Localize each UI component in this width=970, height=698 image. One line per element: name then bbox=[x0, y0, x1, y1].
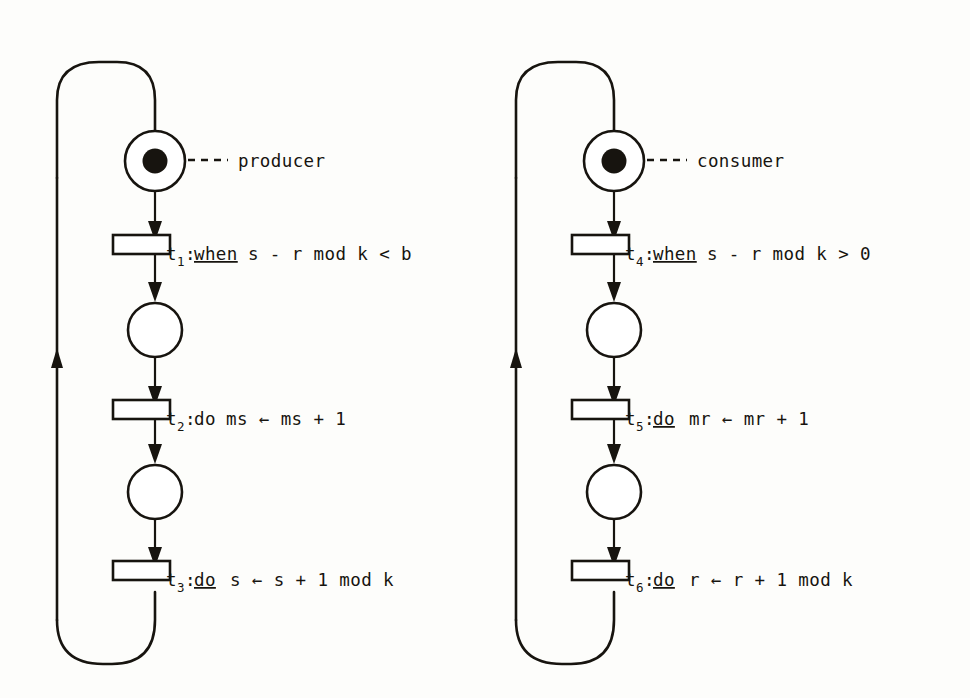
transition-t5-name: t bbox=[625, 409, 636, 429]
transition-t2[interactable] bbox=[113, 400, 170, 419]
producer-net: producer t 1 : when s - r mod k < b t 2 … bbox=[51, 62, 412, 664]
place-producer-mid1[interactable] bbox=[128, 303, 182, 357]
transition-t6-keyword: do bbox=[653, 570, 675, 590]
transition-t3-body: s ← s + 1 mod k bbox=[230, 570, 394, 590]
petri-net-figure: producer t 1 : when s - r mod k < b t 2 … bbox=[0, 0, 970, 698]
transition-t3-name: t bbox=[166, 570, 177, 590]
producer-feedback-arrowhead bbox=[51, 348, 63, 368]
token-consumer-idle bbox=[602, 149, 627, 174]
transition-t5-keyword: do bbox=[653, 409, 675, 429]
arrowhead-t2-to-producer-mid2 bbox=[148, 444, 162, 464]
consumer-annotation-label: consumer bbox=[697, 151, 785, 171]
transition-t4-subscript: 4 bbox=[636, 254, 644, 269]
transition-t6-name: t bbox=[625, 570, 636, 590]
transition-t4-name: t bbox=[625, 244, 636, 264]
producer-feedback-arc-bottom bbox=[57, 592, 155, 664]
consumer-feedback-arc-bottom bbox=[516, 592, 614, 664]
arrowhead-t1-to-producer-mid1 bbox=[148, 282, 162, 302]
transition-t1-subscript: 1 bbox=[177, 254, 185, 269]
token-producer-idle bbox=[143, 149, 168, 174]
transition-t5-subscript: 5 bbox=[636, 419, 644, 434]
transition-t4-body: s - r mod k > 0 bbox=[707, 244, 871, 264]
transition-t6-subscript: 6 bbox=[636, 580, 644, 595]
arrowhead-t4-to-consumer-mid1 bbox=[607, 282, 621, 302]
transition-t2-body: ms ← ms + 1 bbox=[226, 409, 346, 429]
place-producer-mid2[interactable] bbox=[128, 465, 182, 519]
transition-t2-subscript: 2 bbox=[177, 419, 185, 434]
transition-t3-subscript: 3 bbox=[177, 580, 185, 595]
transition-t5-body: mr ← mr + 1 bbox=[689, 409, 809, 429]
consumer-feedback-arrowhead bbox=[510, 348, 522, 368]
transition-t5[interactable] bbox=[572, 400, 629, 419]
arrowhead-t5-to-consumer-mid2 bbox=[607, 444, 621, 464]
petri-net-canvas: producer t 1 : when s - r mod k < b t 2 … bbox=[0, 0, 970, 698]
transition-t3-keyword: do bbox=[194, 570, 216, 590]
transition-t1-keyword: when bbox=[194, 244, 238, 264]
producer-annotation-label: producer bbox=[238, 151, 326, 171]
transition-t1-body: s - r mod k < b bbox=[248, 244, 412, 264]
transition-t3[interactable] bbox=[113, 561, 170, 580]
transition-t2-name: t bbox=[166, 409, 177, 429]
consumer-net: consumer t 4 : when s - r mod k > 0 t 5 … bbox=[510, 62, 871, 664]
transition-t2-keyword: do bbox=[194, 409, 216, 429]
place-consumer-mid1[interactable] bbox=[587, 303, 641, 357]
transition-t1-name: t bbox=[166, 244, 177, 264]
transition-t4-keyword: when bbox=[653, 244, 697, 264]
place-consumer-mid2[interactable] bbox=[587, 465, 641, 519]
transition-t1[interactable] bbox=[113, 235, 170, 254]
transition-t4[interactable] bbox=[572, 235, 629, 254]
transition-t6[interactable] bbox=[572, 561, 629, 580]
transition-t6-body: r ← r + 1 mod k bbox=[689, 570, 853, 590]
